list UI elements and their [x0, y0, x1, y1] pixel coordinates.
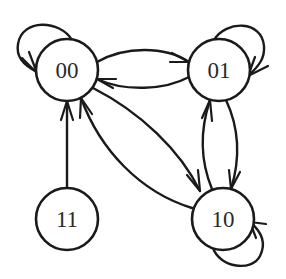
- state-diagram: 00 01 11 10: [0, 0, 286, 279]
- node-01: 01: [188, 39, 250, 101]
- node-label: 01: [208, 58, 231, 83]
- node-label: 10: [212, 207, 235, 232]
- edge-11-to-00: [61, 101, 73, 188]
- edge-01-to-10: [226, 100, 240, 189]
- edge-10-to-01: [202, 100, 212, 189]
- node-11: 11: [36, 188, 98, 250]
- node-label: 00: [56, 58, 79, 83]
- edge-01-to-00: [97, 77, 189, 88]
- edge-00-to-10: [93, 88, 200, 191]
- node-00: 00: [36, 39, 98, 101]
- node-label: 11: [56, 207, 78, 232]
- node-10: 10: [192, 188, 254, 250]
- arrowhead-icon: [170, 53, 189, 62]
- edge-00-to-01: [97, 50, 189, 62]
